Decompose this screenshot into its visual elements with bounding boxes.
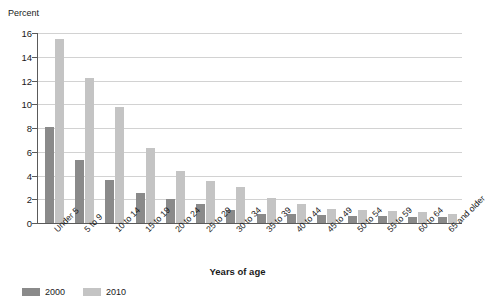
- legend-item-2010: 2010: [83, 287, 126, 297]
- x-axis-tick-label: Under 5: [52, 205, 81, 234]
- legend-swatch-2010: [83, 288, 101, 296]
- legend-label: 2010: [106, 287, 126, 297]
- chart-legend: 20002010: [22, 287, 126, 297]
- legend-swatch-2000: [22, 288, 40, 296]
- x-axis-tick-label: 30 to 34: [234, 205, 263, 234]
- x-axis-tick-label: 40 to 44: [294, 205, 323, 234]
- x-axis-tick-label: 45 to 49: [325, 205, 354, 234]
- x-axis-tick-label: 60 to 64: [416, 205, 445, 234]
- x-axis-tick-label: 10 to 14: [113, 205, 142, 234]
- x-axis-tick-label: 55 to 59: [385, 205, 414, 234]
- x-axis-tick-label: 50 to 54: [355, 205, 384, 234]
- x-axis-tick-label: 35 to 39: [264, 205, 293, 234]
- x-axis-tick-label: 20 to 24: [173, 205, 202, 234]
- x-axis-tick-label: 25 to 29: [204, 205, 233, 234]
- legend-item-2000: 2000: [22, 287, 65, 297]
- x-axis-tick-label: 5 to 9: [82, 212, 104, 234]
- legend-label: 2000: [45, 287, 65, 297]
- x-axis-title: Years of age: [0, 266, 475, 277]
- x-axis-tick-label: 65 and older: [446, 193, 487, 234]
- x-axis-tick-label: 15 to 19: [143, 205, 172, 234]
